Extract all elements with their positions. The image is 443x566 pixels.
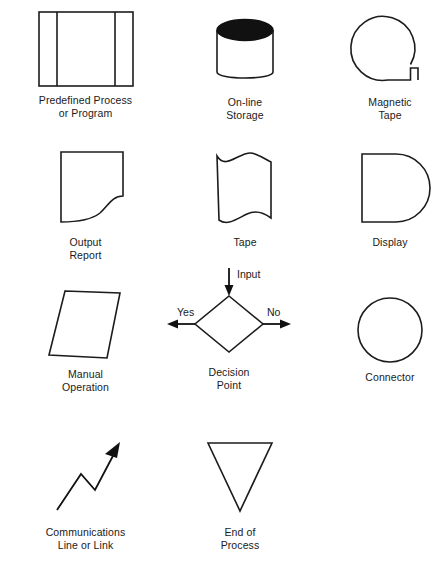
caption-line-1: Output xyxy=(69,236,101,248)
communications-line-caption: Communications Line or Link xyxy=(46,526,126,552)
flowchart-symbols-sheet: Predefined Process or Program On-line St… xyxy=(0,0,443,566)
caption-line-1: Manual xyxy=(68,368,103,380)
symbol-communications-line: Communications Line or Link xyxy=(18,438,153,552)
magnetic-tape-glyph xyxy=(348,10,432,90)
output-report-glyph xyxy=(44,150,128,230)
magnetic-tape-caption: Magnetic Tape xyxy=(368,96,411,122)
caption-line-1: Magnetic xyxy=(368,96,411,108)
caption-line-1: Connector xyxy=(365,371,414,383)
symbol-output-report: Output Report xyxy=(18,150,153,262)
symbol-decision-point: Input Yes No Decision Point xyxy=(165,266,293,392)
caption-line-2: Line or Link xyxy=(46,539,126,552)
end-of-process-glyph xyxy=(199,438,281,516)
manual-operation-glyph xyxy=(41,288,131,362)
caption-line-1: Decision xyxy=(208,366,249,378)
caption-line-1: Tape xyxy=(233,236,256,248)
caption-line-2: Report xyxy=(69,249,101,262)
caption-line-1: End of xyxy=(225,526,256,538)
caption-line-2: Storage xyxy=(226,109,263,122)
communications-line-glyph xyxy=(47,438,125,516)
caption-line-1: Predefined Process xyxy=(39,94,132,106)
symbol-online-storage: On-line Storage xyxy=(190,10,300,122)
decision-input-label: Input xyxy=(237,268,260,280)
online-storage-glyph xyxy=(205,10,285,90)
symbol-display: Display xyxy=(340,150,440,249)
caption-line-2: Tape xyxy=(368,109,411,122)
symbol-manual-operation: Manual Operation xyxy=(18,288,153,394)
decision-yes-label: Yes xyxy=(177,306,194,318)
connector-glyph xyxy=(355,295,425,365)
decision-no-label: No xyxy=(267,306,281,318)
symbol-connector: Connector xyxy=(340,295,440,384)
symbol-predefined-process: Predefined Process or Program xyxy=(18,10,153,120)
tape-caption: Tape xyxy=(233,236,256,249)
symbol-tape: Tape xyxy=(190,150,300,249)
output-report-caption: Output Report xyxy=(69,236,101,262)
caption-line-1: Communications xyxy=(46,526,126,538)
online-storage-caption: On-line Storage xyxy=(226,96,263,122)
caption-line-1: On-line xyxy=(228,96,263,108)
predefined-process-glyph xyxy=(37,10,135,88)
predefined-process-caption: Predefined Process or Program xyxy=(39,94,132,120)
caption-line-2: Point xyxy=(208,379,249,392)
symbol-magnetic-tape: Magnetic Tape xyxy=(340,10,440,122)
display-caption: Display xyxy=(372,236,407,249)
manual-operation-caption: Manual Operation xyxy=(62,368,109,394)
connector-caption: Connector xyxy=(365,371,414,384)
decision-point-glyph: Input Yes No xyxy=(165,266,293,362)
symbol-end-of-process: End of Process xyxy=(185,438,295,552)
caption-line-2: Process xyxy=(221,539,260,552)
caption-line-1: Display xyxy=(372,236,407,248)
display-glyph xyxy=(350,150,430,230)
tape-glyph xyxy=(205,150,285,230)
end-of-process-caption: End of Process xyxy=(221,526,260,552)
caption-line-2: Operation xyxy=(62,381,109,394)
decision-point-caption: Decision Point xyxy=(208,366,249,392)
caption-line-2: or Program xyxy=(39,107,132,120)
